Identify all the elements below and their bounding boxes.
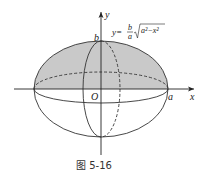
x-axis-label: x [189,91,195,102]
equation: y= b a a²−x² [111,23,165,41]
b-label: b [94,32,99,43]
equation-radicand: a²−x² [141,26,159,35]
a-label: a [168,91,173,102]
equation-denominator: a [128,32,132,41]
figure-caption: 图 5-16 [76,160,112,171]
y-axis-label: y [104,9,110,20]
ellipsoid-diagram: y x O a b y= b a a²−x² 图 5-16 [0,0,209,180]
equation-lhs: y= [111,27,122,37]
equation-numerator: b [128,23,132,32]
origin-label: O [91,91,98,102]
